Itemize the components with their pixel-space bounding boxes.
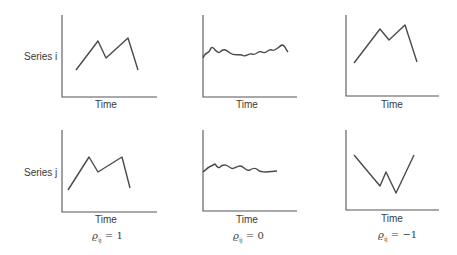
y-label-series-i: Series i <box>24 51 57 62</box>
rho-subscript: ij <box>98 236 102 243</box>
rho-value: = 0 <box>246 230 264 241</box>
x-label-top-right: Time <box>381 99 403 110</box>
x-label-bottom-right: Time <box>381 213 403 224</box>
axes-bottom-right <box>346 130 439 210</box>
correlation-label-1: ϱij = 1 <box>92 230 123 243</box>
rho-value: = 1 <box>105 230 123 241</box>
rho-subscript: ij <box>384 235 388 242</box>
series-line-bottom-left <box>68 157 130 190</box>
x-label-bottom-middle: Time <box>236 214 258 225</box>
series-line-top-right <box>354 25 417 63</box>
x-label-top-middle: Time <box>236 99 258 110</box>
x-label-top-left: Time <box>95 99 117 110</box>
rho-subscript: ij <box>239 236 243 243</box>
correlation-label-neg1: ϱij = −1 <box>378 229 417 242</box>
y-label-series-j: Series j <box>24 167 57 178</box>
axes-bottom-left <box>62 130 157 212</box>
series-line-top-middle <box>203 45 288 58</box>
series-line-bottom-middle <box>203 164 277 172</box>
axes-top-middle <box>203 15 297 97</box>
series-line-top-left <box>76 38 138 70</box>
axes-top-left <box>62 15 157 97</box>
x-label-bottom-left: Time <box>95 214 117 225</box>
series-line-bottom-right <box>354 155 414 193</box>
rho-value: = −1 <box>391 229 417 240</box>
correlation-label-0: ϱij = 0 <box>233 230 264 243</box>
